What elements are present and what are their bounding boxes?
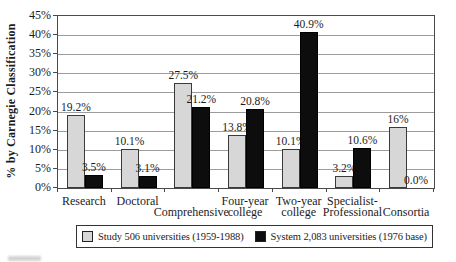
y-tick-mark (53, 91, 57, 92)
y-tick-label: 25% (9, 84, 51, 98)
bar (67, 115, 85, 188)
gridline (58, 92, 434, 93)
bar-value-label: 21.2% (177, 93, 225, 106)
y-tick-mark (53, 15, 57, 16)
scan-artifact (8, 256, 41, 261)
gridline (58, 54, 434, 55)
bar-value-label: 3.5% (70, 161, 118, 174)
bar-value-label: 19.2% (52, 101, 100, 114)
y-tick-label: 20% (9, 104, 51, 118)
x-tick-mark (433, 189, 434, 192)
bar-value-label: 40.9% (285, 18, 333, 31)
y-tick-label: 15% (9, 123, 51, 137)
y-tick-label: 5% (9, 161, 51, 175)
y-tick-mark (53, 168, 57, 169)
gridline (58, 73, 434, 74)
bar (246, 109, 264, 189)
y-tick-mark (53, 149, 57, 150)
bar (353, 148, 371, 189)
y-tick-label: 35% (9, 46, 51, 60)
bar-chart-figure: % by Carnegie Classification 19.2%10.1%2… (0, 0, 456, 262)
y-tick-mark (53, 53, 57, 54)
bar (139, 176, 157, 188)
legend: Study 506 universities (1959-1988) Syste… (76, 225, 433, 248)
legend-swatch-system (255, 231, 266, 242)
y-tick-mark (53, 34, 57, 35)
x-tick-mark (164, 189, 165, 192)
bar (85, 175, 103, 188)
bar-value-label: 16% (374, 113, 422, 126)
x-tick-mark (326, 189, 327, 192)
bar-value-label: 3.1% (124, 162, 172, 175)
y-tick-mark (53, 187, 57, 188)
y-tick-label: 45% (9, 8, 51, 22)
y-tick-mark (53, 111, 57, 112)
x-tick-mark (57, 189, 58, 192)
bar (282, 149, 300, 188)
x-tick-mark (379, 189, 380, 192)
bar (300, 32, 318, 188)
x-tick-mark (272, 189, 273, 192)
bar-value-label: 0.0% (392, 174, 440, 187)
bar-value-label: 10.6% (338, 134, 386, 147)
y-tick-label: 40% (9, 27, 51, 41)
legend-swatch-study (82, 231, 93, 242)
bar-value-label: 27.5% (159, 69, 207, 82)
y-tick-mark (53, 72, 57, 73)
x-category-label: Consortia (358, 207, 454, 218)
y-tick-label: 0% (9, 180, 51, 194)
bar (335, 176, 353, 188)
plot-area: 19.2%10.1%27.5%13.8%10.1%3.2%16%3.5%3.1%… (57, 15, 435, 189)
x-tick-mark (111, 189, 112, 192)
bar (228, 135, 246, 188)
gridline (58, 35, 434, 36)
legend-label-study: Study 506 universities (1959-1988) (98, 231, 244, 242)
y-tick-label: 10% (9, 142, 51, 156)
y-tick-mark (53, 130, 57, 131)
bar (192, 107, 210, 188)
y-tick-label: 30% (9, 65, 51, 79)
bar-value-label: 10.1% (106, 135, 154, 148)
legend-label-system: System 2,083 universities (1976 base) (271, 231, 427, 242)
x-tick-mark (218, 189, 219, 192)
bar-value-label: 20.8% (231, 95, 279, 108)
